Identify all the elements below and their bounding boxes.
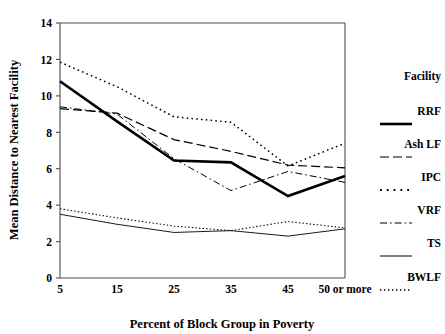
y-tick-label-14: 14 (41, 17, 53, 29)
x-tick-label-35: 35 (225, 283, 237, 295)
y-tick-label-10: 10 (41, 90, 53, 102)
y-tick-label-12: 12 (41, 54, 53, 66)
legend-label-ash-lf[interactable]: Ash LF (404, 138, 441, 150)
line-chart: 0 2 4 6 8 10 12 14 5 15 25 35 45 50 or m… (0, 0, 445, 334)
y-axis-title: Mean Distance to Nearest Facility (7, 59, 21, 240)
y-tick-label-8: 8 (46, 127, 52, 139)
x-tick-label-25: 25 (168, 283, 180, 295)
x-tick-label-45: 45 (282, 283, 294, 295)
x-tick-label-5: 5 (57, 283, 63, 295)
y-tick-label-4: 4 (46, 199, 52, 211)
y-tick-label-2: 2 (46, 236, 52, 248)
legend-label-rrf[interactable]: RRF (417, 105, 441, 117)
legend-label-ts[interactable]: TS (427, 237, 441, 249)
y-tick-label-0: 0 (46, 272, 52, 284)
x-axis-title: Percent of Block Group in Poverty (130, 317, 315, 331)
chart-background (0, 0, 445, 334)
legend-label-vrf[interactable]: VRF (417, 204, 441, 216)
legend-label-ipc[interactable]: IPC (421, 171, 441, 183)
legend-label-bwlf[interactable]: BWLF (407, 271, 441, 283)
x-tick-label-50-or-more: 50 or more (318, 283, 371, 295)
legend-title: Facility (404, 70, 441, 83)
chart-figure: 0 2 4 6 8 10 12 14 5 15 25 35 45 50 or m… (0, 0, 445, 334)
y-tick-label-6: 6 (46, 163, 52, 175)
x-tick-label-15: 15 (111, 283, 123, 295)
